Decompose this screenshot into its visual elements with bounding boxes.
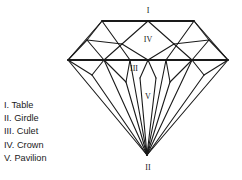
crown-upper-girdle-left-a xyxy=(87,21,102,40)
crown-upper-girdle-left-d xyxy=(87,40,104,60)
legend-item-table: I. Table xyxy=(4,99,76,112)
pavilion-inner-left xyxy=(130,60,147,155)
pavilion-right-outline xyxy=(147,60,228,155)
label-crown-numeral: IV xyxy=(144,35,153,44)
label-table-numeral: I xyxy=(147,6,150,15)
pavilion-lgf-center-left xyxy=(140,60,148,78)
label-culet-numeral: III xyxy=(130,64,138,73)
pavilion-lgf-left-inner xyxy=(92,60,104,75)
pavilion-lgf-right-outer xyxy=(204,60,228,75)
pavilion-converge-left xyxy=(92,75,147,155)
crown-upper-girdle-right-b xyxy=(209,40,228,60)
crown-star-right-lower xyxy=(148,44,174,60)
crown-star-left-lower xyxy=(122,44,148,60)
label-pavilion-numeral: V xyxy=(145,92,151,101)
crown-upper-girdle-right-e xyxy=(174,44,192,60)
pavilion-main-left xyxy=(104,60,147,155)
diagram-page: I IV III V II I. Table II. Girdle III. C… xyxy=(0,0,242,180)
pavilion-left-outline xyxy=(68,60,147,155)
pavilion-lgf-midright-inner xyxy=(166,60,170,82)
legend-item-girdle: II. Girdle xyxy=(4,112,76,125)
legend-item-pavilion: V. Pavilion xyxy=(4,152,76,165)
crown-upper-girdle-right-a xyxy=(194,21,209,40)
pavilion-lgf-midleft-outer xyxy=(104,60,126,82)
crown-upper-girdle-left-e xyxy=(104,44,122,60)
pavilion-lgf-right-inner xyxy=(192,60,204,75)
pavilion-lgf-left-outer xyxy=(68,60,92,75)
pavilion-lgf-center-right xyxy=(148,60,156,78)
pavilion-lgf-midright-outer xyxy=(170,60,192,82)
crown-upper-girdle-left-b xyxy=(68,40,87,60)
legend: I. Table II. Girdle III. Culet IV. Crown… xyxy=(4,99,76,165)
crown-upper-girdle-right-d xyxy=(192,40,209,60)
legend-item-culet: III. Culet xyxy=(4,125,76,138)
label-girdle-numeral: II xyxy=(145,163,151,172)
legend-item-crown: IV. Crown xyxy=(4,139,76,152)
